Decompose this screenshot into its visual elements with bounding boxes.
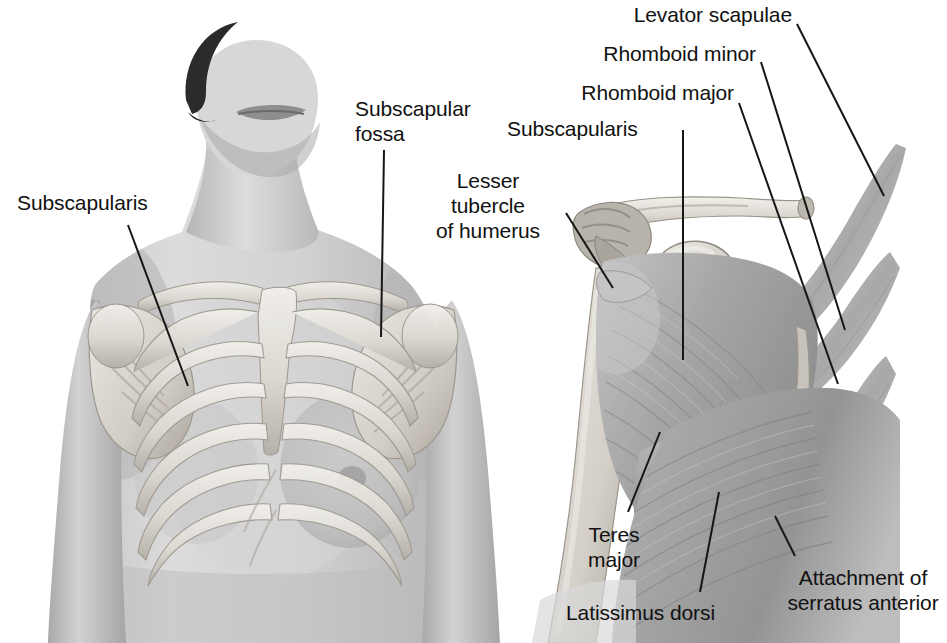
label-subscapularis-right: Subscapularis bbox=[507, 116, 667, 141]
head-and-neck bbox=[180, 0, 340, 252]
label-rhomboid-minor: Rhomboid minor bbox=[490, 41, 756, 66]
leader-levator-scapulae bbox=[797, 24, 884, 196]
label-latissimus-dorsi: Latissimus dorsi bbox=[566, 600, 786, 625]
label-levator-scapulae: Levator scapulae bbox=[520, 2, 792, 27]
humerus-head-left bbox=[88, 304, 144, 368]
label-subscapularis-left: Subscapularis bbox=[17, 190, 197, 215]
label-serratus-anterior: Attachment of serratus anterior bbox=[778, 565, 947, 615]
label-teres-major: Teres major bbox=[559, 522, 669, 572]
label-lesser-tubercle: Lesser tubercle of humerus bbox=[418, 168, 558, 243]
label-rhomboid-major: Rhomboid major bbox=[470, 80, 734, 105]
anatomy-figure: Subscapularis Subscapular fossa Subscapu… bbox=[0, 0, 947, 643]
